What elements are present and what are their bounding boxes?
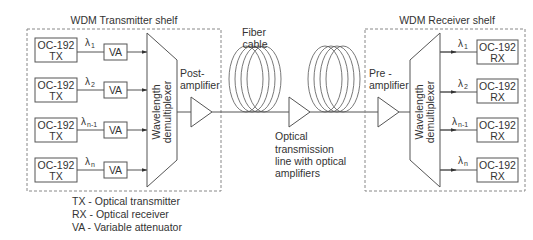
tx-channel-n: OC-192 TX λ n VA	[35, 156, 147, 182]
legend-item-tx: TX - Optical transmitter	[72, 195, 180, 207]
lambda-label: λ	[452, 116, 457, 127]
pre-amplifier-label-line1: Pre -	[369, 67, 392, 79]
lambda-label: λ	[458, 38, 463, 49]
va-label: VA	[109, 46, 122, 58]
tx-box-line2: TX	[49, 50, 62, 62]
fiber-coil-2	[308, 46, 360, 112]
legend: TX - Optical transmitter RX - Optical re…	[72, 195, 182, 233]
va-label: VA	[109, 124, 122, 136]
va-label: VA	[109, 164, 122, 176]
lambda-label: λ	[458, 78, 463, 89]
wdm-system-diagram: WDM Transmitter shelf OC-192 TX λ 1 VA O…	[0, 0, 533, 240]
receiver-shelf: WDM Receiver shelf Pre - amplifier Wavel…	[365, 14, 525, 191]
rx-channel-2: λ 2 OC-192 RX	[440, 78, 518, 103]
transmitter-shelf-title: WDM Transmitter shelf	[71, 14, 178, 26]
tx-channel-2: OC-192 TX λ 2 VA	[35, 76, 147, 102]
lambda-subscript: 1	[464, 43, 468, 50]
post-amplifier-label-line2: amplifier	[180, 79, 220, 91]
lambda-label: λ	[85, 76, 90, 87]
post-amplifier	[191, 97, 212, 127]
svg-text:line with optical: line with optical	[275, 155, 346, 167]
svg-text:Optical: Optical	[275, 130, 308, 142]
lambda-label: λ	[458, 155, 463, 166]
svg-text:amplifiers: amplifiers	[275, 167, 320, 179]
svg-text:transmission: transmission	[275, 143, 334, 155]
tx-channel-n-minus-1: OC-192 TX λ n-1 VA	[35, 116, 147, 142]
rx-channel-1: λ 1 OC-192 RX	[440, 38, 518, 64]
demux-label-line2: demultiplexer	[424, 80, 436, 143]
lambda-subscript: n	[464, 160, 468, 167]
tx-box-line2: TX	[49, 170, 62, 182]
legend-item-rx: RX - Optical receiver	[72, 208, 169, 220]
fiber-coil-1	[229, 46, 281, 112]
rx-box-line2: RX	[490, 91, 505, 103]
lambda-subscript: n	[91, 161, 95, 168]
pre-amplifier	[378, 97, 399, 127]
mux-label-line2: demultiplexer	[161, 80, 173, 143]
fiber-cable-label-line2: cable	[242, 38, 267, 50]
fiber-cable-label-line1-visible: Fiber	[242, 26, 266, 38]
lambda-label: λ	[85, 156, 90, 167]
rx-channel-n-minus-1: λ n-1 OC-192 RX	[440, 116, 518, 142]
lambda-subscript: 1	[91, 42, 95, 49]
rx-channel-n: λ n OC-192 RX	[440, 155, 518, 182]
lambda-label: λ	[85, 37, 90, 48]
rx-box-line2: RX	[490, 170, 505, 182]
lambda-label: λ	[81, 116, 86, 127]
rx-box-line2: RX	[490, 130, 505, 142]
receiver-shelf-title: WDM Receiver shelf	[399, 14, 495, 26]
tx-box-line2: TX	[49, 130, 62, 142]
va-label: VA	[109, 84, 122, 96]
tx-channel-1: OC-192 TX λ 1 VA	[35, 37, 147, 62]
pre-amplifier-label-line2: amplifier	[369, 79, 409, 91]
lambda-subscript: 2	[91, 81, 95, 88]
tx-box-line2: TX	[49, 90, 62, 102]
inline-optical-amplifier	[289, 97, 310, 127]
lambda-subscript: n-1	[458, 121, 468, 128]
legend-item-va: VA - Variable attenuator	[72, 221, 182, 233]
lambda-subscript: 2	[464, 83, 468, 90]
rx-box-line2: RX	[490, 52, 505, 64]
post-amplifier-label-line1: Post-	[180, 67, 205, 79]
lambda-subscript: n-1	[87, 121, 97, 128]
transmission-line-label: Optical transmission line with optical a…	[275, 130, 346, 179]
